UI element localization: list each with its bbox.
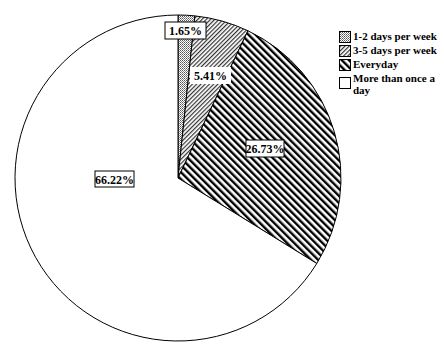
- legend-label: 1-2 days per week: [353, 30, 437, 42]
- pie-slices: [15, 15, 341, 341]
- legend-item-more-than-once: More than once a day: [339, 72, 444, 96]
- svg-text:5.41%: 5.41%: [194, 69, 227, 83]
- legend-item-everyday: Everyday: [339, 58, 444, 71]
- swatch-blank-icon: [339, 77, 351, 89]
- legend-label: 3-5 days per week: [353, 44, 437, 56]
- legend-item-1-2-days: 1-2 days per week: [339, 30, 444, 43]
- swatch-backward-diagonal-icon: [339, 59, 351, 71]
- slice-label-1-2-days: 1.65%: [165, 22, 206, 39]
- legend-label: Everyday: [353, 58, 398, 70]
- slice-label-everyday: 26.73%: [246, 140, 285, 157]
- slice-label-more-than-once: 66.22%: [95, 171, 134, 187]
- legend-item-3-5-days: 3-5 days per week: [339, 44, 444, 57]
- slice-label-3-5-days: 5.41%: [190, 67, 231, 84]
- svg-text:1.65%: 1.65%: [169, 24, 202, 38]
- legend-label: More than once a day: [353, 72, 444, 96]
- swatch-forward-diagonal-icon: [339, 45, 351, 57]
- swatch-dots-icon: [339, 31, 351, 43]
- legend: 1-2 days per week 3-5 days per week Ever…: [339, 30, 444, 97]
- svg-text:26.73%: 26.73%: [246, 142, 285, 156]
- svg-text:66.22%: 66.22%: [95, 173, 134, 187]
